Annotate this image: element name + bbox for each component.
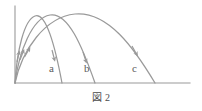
figure-container: a b c 図 2 (0, 0, 202, 111)
arrow-a-descending (52, 50, 55, 60)
curve-label-c: c (132, 63, 137, 74)
direction-arrows-group (17, 46, 137, 62)
trajectory-curve-a (15, 16, 62, 83)
curve-label-a: a (49, 63, 54, 74)
projectile-trajectory-plot (0, 0, 202, 96)
figure-caption: 図 2 (0, 92, 202, 104)
curve-label-b: b (84, 63, 90, 74)
